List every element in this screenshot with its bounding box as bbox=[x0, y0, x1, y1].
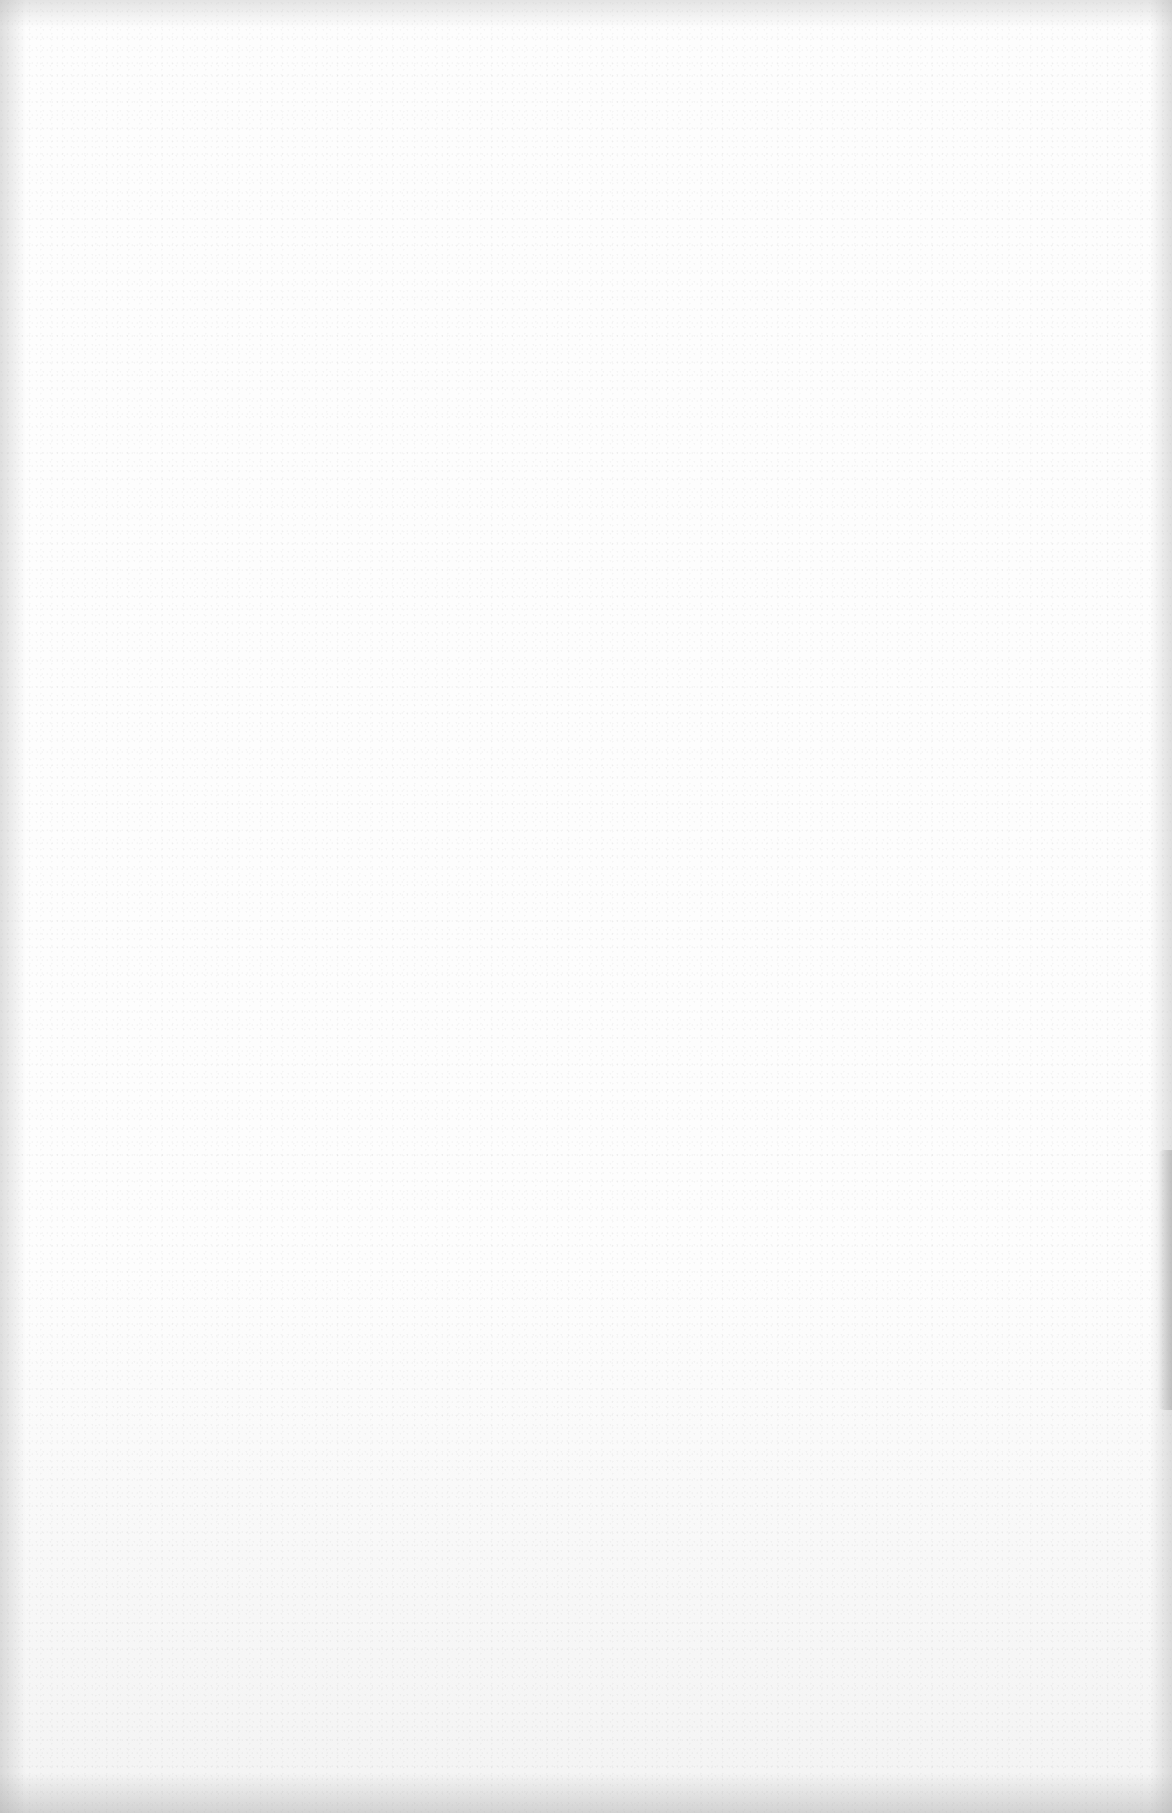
page-content bbox=[0, 0, 1172, 1813]
blank-paper-page bbox=[0, 0, 1172, 1813]
